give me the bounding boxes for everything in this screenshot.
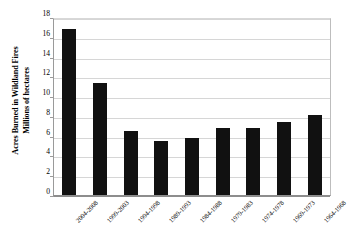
bar-slot — [177, 19, 208, 195]
bar-series — [54, 19, 330, 195]
y-axis-tick-label: 8 — [36, 109, 50, 117]
bar[interactable] — [93, 83, 107, 195]
bar[interactable] — [277, 122, 291, 195]
bar[interactable] — [124, 131, 138, 195]
plot-area — [53, 18, 331, 196]
bar-slot — [115, 19, 146, 195]
y-axis-tick-label: 10 — [36, 89, 50, 97]
bar-slot — [269, 19, 300, 195]
y-axis-tick-label: 14 — [36, 50, 50, 58]
bar-slot — [85, 19, 116, 195]
x-axis-label-slot: 1989-1993 — [146, 196, 177, 244]
x-axis-label-slot: 1979-1983 — [207, 196, 238, 244]
bar[interactable] — [154, 141, 168, 195]
x-axis-label-slot: 1974-1978 — [238, 196, 269, 244]
y-axis-tick-label: 0 — [36, 188, 50, 196]
x-axis-label-slot: 2004-2008 — [53, 196, 84, 244]
y-axis-tick-label: 6 — [36, 129, 50, 137]
y-axis-tick-label: 18 — [36, 10, 50, 18]
bar[interactable] — [308, 115, 322, 195]
bar[interactable] — [246, 128, 260, 195]
y-axis-title-line-1: Acres Burned in Wildland Fires — [11, 46, 22, 154]
x-axis-tick-label: 1964-1968 — [322, 199, 347, 224]
y-axis-tick-label: 2 — [36, 168, 50, 176]
bar[interactable] — [216, 128, 230, 195]
x-axis-tick-labels: 2004-20081999-20031994-19981989-19931984… — [53, 196, 331, 244]
x-axis-label-slot: 1994-1998 — [115, 196, 146, 244]
y-axis-tick-label: 4 — [36, 148, 50, 156]
bar-slot — [207, 19, 238, 195]
x-axis-label-slot: 1969-1973 — [269, 196, 300, 244]
bar[interactable] — [62, 29, 76, 195]
bar[interactable] — [185, 138, 199, 195]
x-axis-label-slot: 1999-2003 — [84, 196, 115, 244]
bar-slot — [299, 19, 330, 195]
bar-slot — [146, 19, 177, 195]
y-axis-title-line-2: Millions of hectares — [21, 46, 32, 154]
y-axis-tick-label: 12 — [36, 69, 50, 77]
x-axis-label-slot: 1964-1968 — [300, 196, 331, 244]
bar-slot — [238, 19, 269, 195]
y-axis-tick-label: 16 — [36, 30, 50, 38]
y-axis-tick-labels: 181614121086420 — [36, 14, 50, 200]
x-axis-label-slot: 1984-1988 — [177, 196, 208, 244]
bar-slot — [54, 19, 85, 195]
